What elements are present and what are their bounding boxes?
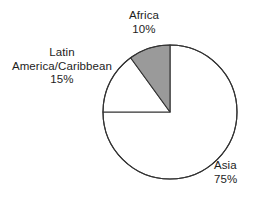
pie-label-asia-value: 75% [214, 173, 262, 187]
pie-label-latin-line1: Latin [49, 46, 74, 58]
pie-label-latin-line2: America/Caribbean [12, 60, 112, 72]
pie-label-latin-value: 15% [6, 73, 118, 87]
pie-label-asia-name: Asia [214, 159, 237, 171]
pie-label-latin-america-caribbean: Latin America/Caribbean 15% [6, 46, 118, 87]
pie-label-africa-name: Africa [129, 9, 159, 21]
pie-label-asia: Asia 75% [214, 159, 262, 186]
pie-label-africa-value: 10% [108, 23, 180, 37]
pie-label-africa: Africa 10% [108, 9, 180, 36]
pie-chart: Africa 10% Latin America/Caribbean 15% A… [0, 0, 264, 201]
